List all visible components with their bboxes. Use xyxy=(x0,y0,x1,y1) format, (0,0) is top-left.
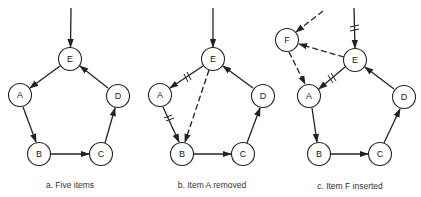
svg-text:A: A xyxy=(17,90,23,100)
svg-text:B: B xyxy=(36,149,42,159)
svg-text:B: B xyxy=(179,149,185,159)
edge-e-to-a-cut xyxy=(170,66,203,88)
edge-a-to-b xyxy=(312,108,317,142)
edge-c-to-d xyxy=(384,109,400,143)
edge-e-to-f-new xyxy=(299,44,344,57)
svg-text:C: C xyxy=(377,149,384,159)
node-a: A xyxy=(298,85,321,108)
caption-c: c. Item F inserted xyxy=(317,181,383,191)
svg-text:B: B xyxy=(316,149,322,159)
edge-entry-to-f-new xyxy=(296,11,323,32)
node-c: C xyxy=(232,143,255,166)
cut-mark xyxy=(331,73,336,81)
node-b: B xyxy=(28,143,51,166)
svg-text:C: C xyxy=(98,149,105,159)
node-e: E xyxy=(59,48,82,71)
node-d: D xyxy=(393,86,416,109)
edge-c-to-d xyxy=(247,108,260,143)
edge-entry-to-e xyxy=(71,8,72,47)
panel-b: E A D B C b. Item A removed xyxy=(149,8,275,190)
node-c: C xyxy=(90,143,113,166)
node-d: D xyxy=(107,85,130,108)
edge-a-to-b xyxy=(23,107,36,142)
svg-text:F: F xyxy=(284,35,290,45)
svg-text:D: D xyxy=(401,92,408,102)
svg-text:E: E xyxy=(210,54,216,64)
edge-entry-to-e-cut xyxy=(354,8,355,48)
node-c: C xyxy=(369,143,392,166)
node-f: F xyxy=(276,29,299,52)
edge-d-to-e xyxy=(80,66,108,88)
edge-e-to-b-new xyxy=(185,70,209,142)
svg-text:E: E xyxy=(352,55,358,65)
cut-mark xyxy=(166,118,174,121)
cut-mark xyxy=(328,75,333,83)
panel-c: F E A D B C c. Item F inserted xyxy=(276,8,416,191)
edge-e-to-a xyxy=(30,66,60,88)
node-e: E xyxy=(344,49,367,72)
svg-text:D: D xyxy=(115,91,122,101)
svg-text:E: E xyxy=(67,54,73,64)
edge-e-to-a-cut xyxy=(319,67,345,89)
node-b: B xyxy=(308,143,331,166)
linked-list-diagram: E A D B C a. Five items E A D B C b. Ite… xyxy=(0,0,421,197)
edge-d-to-e xyxy=(223,66,253,88)
node-b: B xyxy=(171,143,194,166)
node-d: D xyxy=(252,85,275,108)
edge-f-to-a-new xyxy=(289,52,305,84)
caption-a: a. Five items xyxy=(46,180,94,190)
panel-a: E A D B C a. Five items xyxy=(9,8,130,190)
svg-text:A: A xyxy=(157,90,163,100)
svg-text:A: A xyxy=(306,91,312,101)
edge-a-to-b-cut xyxy=(163,107,179,142)
node-e: E xyxy=(202,48,225,71)
caption-b: b. Item A removed xyxy=(178,180,247,190)
edge-c-to-d xyxy=(105,108,115,143)
svg-text:D: D xyxy=(260,91,267,101)
edge-d-to-e xyxy=(365,67,394,89)
node-a: A xyxy=(149,84,172,107)
svg-text:C: C xyxy=(240,149,247,159)
node-a: A xyxy=(9,84,32,107)
